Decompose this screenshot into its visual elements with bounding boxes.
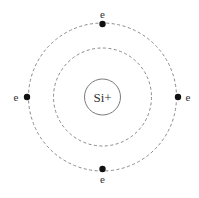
- electron-label-top: e: [100, 8, 105, 20]
- nucleus-label: Si+: [93, 90, 111, 105]
- electron-right: [175, 94, 181, 100]
- electron-label-bottom: e: [100, 173, 105, 185]
- electron-left: [24, 94, 30, 100]
- electron-top: [99, 21, 105, 27]
- electron-label-left: e: [14, 91, 19, 103]
- electron-label-right: e: [186, 91, 191, 103]
- electron-bottom: [99, 166, 105, 172]
- atom-diagram: Si+ e e e e: [0, 0, 199, 198]
